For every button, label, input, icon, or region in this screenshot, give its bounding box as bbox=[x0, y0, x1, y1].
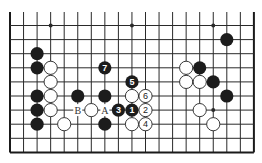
stone-circle bbox=[30, 118, 43, 131]
move-number: 1 bbox=[129, 105, 134, 115]
star-point bbox=[49, 24, 53, 28]
star-point bbox=[211, 24, 215, 28]
stone-circle bbox=[30, 47, 43, 60]
white-stone bbox=[193, 75, 206, 88]
black-stone bbox=[207, 75, 220, 88]
move-number: 3 bbox=[116, 105, 121, 115]
black-stone-3: 3 bbox=[112, 104, 125, 117]
black-stone-5: 5 bbox=[125, 75, 138, 88]
stone-circle bbox=[98, 118, 111, 131]
white-stone bbox=[44, 104, 57, 117]
black-stone bbox=[30, 47, 43, 60]
stone-circle bbox=[125, 118, 138, 131]
white-stone-4: 4 bbox=[139, 118, 152, 131]
black-stone-1: 1 bbox=[125, 104, 138, 117]
white-stone bbox=[58, 118, 71, 131]
stone-circle bbox=[193, 75, 206, 88]
stone-circle bbox=[220, 89, 233, 102]
move-number: 7 bbox=[102, 63, 107, 73]
move-number: 6 bbox=[143, 91, 148, 101]
stone-circle bbox=[180, 75, 193, 88]
white-stone-2: 2 bbox=[139, 104, 152, 117]
black-stone bbox=[220, 33, 233, 46]
white-stone-6: 6 bbox=[139, 89, 152, 102]
white-stone bbox=[180, 75, 193, 88]
white-stone bbox=[125, 89, 138, 102]
stone-circle bbox=[44, 75, 57, 88]
star-point bbox=[211, 108, 215, 112]
go-board: BA 7563124 bbox=[0, 0, 262, 163]
white-stone bbox=[85, 104, 98, 117]
stone-circle bbox=[85, 104, 98, 117]
black-stone bbox=[98, 89, 111, 102]
black-stone bbox=[30, 118, 43, 131]
stone-circle bbox=[180, 61, 193, 74]
stone-circle bbox=[98, 89, 111, 102]
white-stone bbox=[125, 118, 138, 131]
star-point bbox=[130, 24, 134, 28]
stone-circle bbox=[44, 89, 57, 102]
stone-circle bbox=[193, 104, 206, 117]
stone-circle bbox=[125, 89, 138, 102]
marker-label-b: B bbox=[74, 105, 81, 116]
white-stone bbox=[44, 75, 57, 88]
stone-circle bbox=[207, 118, 220, 131]
stone-circle bbox=[71, 89, 84, 102]
white-stone bbox=[180, 61, 193, 74]
stone-circle bbox=[193, 61, 206, 74]
black-stone bbox=[220, 89, 233, 102]
white-stone bbox=[44, 61, 57, 74]
stone-circle bbox=[30, 61, 43, 74]
black-stone bbox=[30, 61, 43, 74]
stone-circle bbox=[30, 104, 43, 117]
move-number: 5 bbox=[129, 77, 134, 87]
black-stone bbox=[30, 104, 43, 117]
white-stone bbox=[207, 118, 220, 131]
stone-circle bbox=[220, 33, 233, 46]
black-stone bbox=[98, 118, 111, 131]
move-number: 2 bbox=[143, 105, 148, 115]
stone-circle bbox=[30, 89, 43, 102]
black-stone-7: 7 bbox=[98, 61, 111, 74]
marker-label-a: A bbox=[101, 105, 109, 116]
black-stone bbox=[30, 89, 43, 102]
stone-circle bbox=[58, 118, 71, 131]
stone-circle bbox=[207, 75, 220, 88]
black-stone bbox=[193, 61, 206, 74]
white-stone bbox=[193, 104, 206, 117]
move-number: 4 bbox=[143, 119, 148, 129]
stone-circle bbox=[44, 104, 57, 117]
white-stone bbox=[44, 89, 57, 102]
stone-circle bbox=[44, 61, 57, 74]
black-stone bbox=[71, 89, 84, 102]
